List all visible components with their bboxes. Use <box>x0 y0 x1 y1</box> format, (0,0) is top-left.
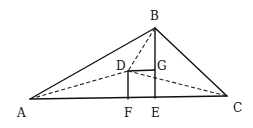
segment-dc-dashed <box>128 71 227 96</box>
label-d: D <box>116 59 126 73</box>
geometry-diagram: A B C D E F G <box>0 0 253 128</box>
label-f: F <box>124 106 132 120</box>
segment-dg <box>128 70 155 71</box>
segment-bd-dashed <box>128 28 155 71</box>
label-a: A <box>16 106 26 120</box>
label-e: E <box>151 106 160 120</box>
label-b: B <box>150 9 159 23</box>
label-c: C <box>233 101 242 115</box>
label-g: G <box>157 59 167 73</box>
segment-ad-dashed <box>30 71 128 99</box>
segment-ab <box>30 28 155 99</box>
